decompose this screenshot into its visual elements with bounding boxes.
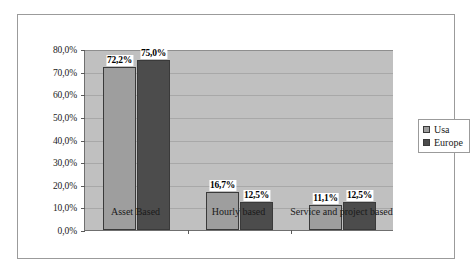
y-axis-tick-label: 30,0% (53, 158, 77, 168)
x-axis-category-label: Hourly based (187, 205, 290, 218)
y-axis-tick-label: 10,0% (53, 203, 77, 213)
y-axis-tick-mark (81, 231, 85, 232)
bar-value-label: 12,5% (243, 190, 270, 201)
legend-item-usa[interactable]: Usa (423, 123, 463, 136)
legend-swatch-icon (423, 139, 430, 146)
legend-label: Usa (434, 124, 450, 135)
x-axis-tick-mark (291, 230, 292, 234)
y-axis-tick-mark (81, 118, 85, 119)
y-axis-tick-mark (81, 141, 85, 142)
legend-item-europe[interactable]: Europe (423, 136, 463, 149)
y-axis-tick-mark (81, 73, 85, 74)
y-axis-tick-label: 70,0% (53, 68, 77, 78)
gridline (85, 50, 393, 51)
x-axis-category-label: Service and project based (290, 205, 393, 218)
y-axis-tick-mark (81, 50, 85, 51)
legend-swatch-icon (423, 126, 430, 133)
y-axis-tick-label: 60,0% (53, 90, 77, 100)
y-axis-tick-label: 80,0% (53, 45, 77, 55)
bar-value-label: 12,5% (346, 190, 373, 201)
legend-label: Europe (434, 137, 463, 148)
plot-area: 72,2%75,0%16,7%12,5%11,1%12,5% (84, 50, 393, 231)
y-axis-tick-label: 50,0% (53, 113, 77, 123)
y-axis-tick-mark (81, 186, 85, 187)
bar-value-label: 11,1% (312, 193, 339, 204)
chart-legend: UsaEurope (418, 119, 470, 153)
bar-value-label: 75,0% (140, 48, 167, 59)
y-axis-tick-mark (81, 163, 85, 164)
y-axis-tick-label: 0,0% (58, 226, 77, 236)
y-axis: 0,0%10,0%20,0%30,0%40,0%50,0%60,0%70,0%8… (35, 15, 81, 258)
y-axis-tick-label: 20,0% (53, 181, 77, 191)
y-axis-tick-label: 40,0% (53, 136, 77, 146)
y-axis-tick-mark (81, 95, 85, 96)
bar-value-label: 16,7% (209, 180, 236, 191)
x-axis-category-label: Asset Based (84, 205, 187, 218)
x-axis-tick-mark (188, 230, 189, 234)
bar-value-label: 72,2% (106, 55, 133, 66)
chart-frame: 0,0%10,0%20,0%30,0%40,0%50,0%60,0%70,0%8… (17, 14, 455, 259)
